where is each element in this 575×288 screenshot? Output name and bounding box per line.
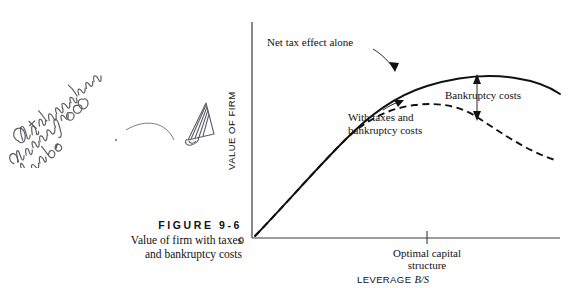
origin-label: 0 xyxy=(239,234,245,246)
annotation-with-bankruptcy-label-line-1: With taxes and xyxy=(348,111,414,123)
annotation-bankruptcy-costs-label: Bankruptcy costs xyxy=(445,89,521,101)
x-tick-label-line-1: Optimal capital xyxy=(393,247,461,259)
figure-page: FIGURE 9-6 Value of firm with taxes and … xyxy=(0,0,575,288)
chart: 0 VALUE OF FIRM Net tax effect alone Wit… xyxy=(215,0,575,288)
x-tick-label-line-2: structure xyxy=(408,259,447,271)
handwritten-annotation xyxy=(8,18,183,168)
handwriting-leader-curve xyxy=(126,123,174,140)
handwriting-svg xyxy=(8,18,183,168)
y-axis-title: VALUE OF FIRM xyxy=(226,91,237,170)
x-axis-title-prefix: LEVERAGE xyxy=(357,274,414,285)
annotation-net-tax-effect-label: Net tax effect alone xyxy=(267,36,353,48)
annotation-net-tax-effect-arrowhead xyxy=(389,62,399,72)
x-axis-title: LEVERAGE B/S xyxy=(357,274,430,285)
annotation-with-bankruptcy-label-line-2: bankruptcy costs xyxy=(348,124,422,136)
x-axis-title-italic: B/S xyxy=(414,274,429,285)
chart-svg: 0 VALUE OF FIRM Net tax effect alone Wit… xyxy=(215,0,575,288)
annotation-net-tax-effect-leader xyxy=(373,49,395,70)
